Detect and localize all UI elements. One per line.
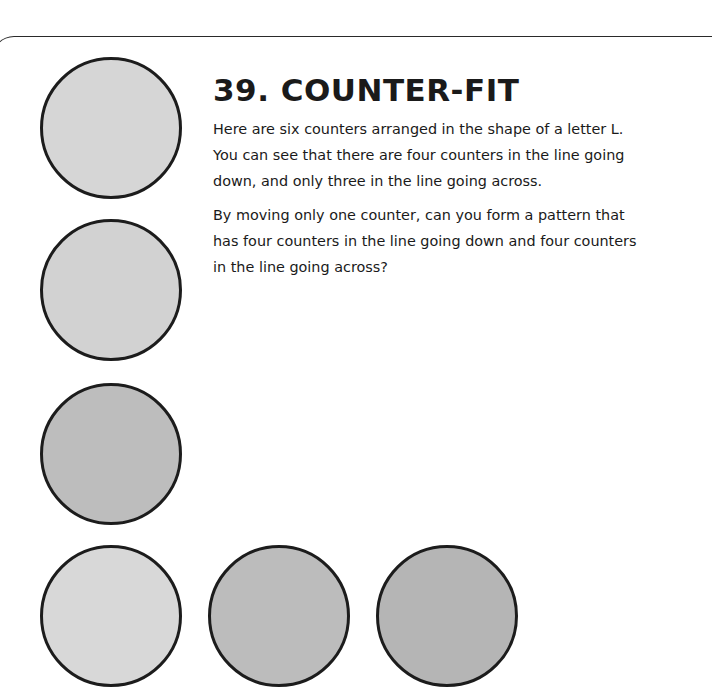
- text-line: has four counters in the line going down…: [213, 228, 665, 254]
- counter-4-corner[interactable]: [40, 545, 182, 687]
- counter-6[interactable]: [376, 545, 518, 687]
- text-line: Here are six counters arranged in the sh…: [213, 116, 665, 142]
- counter-5[interactable]: [208, 545, 350, 687]
- text-line: By moving only one counter, can you form…: [213, 202, 665, 228]
- intro-paragraph: Here are six counters arranged in the sh…: [213, 116, 665, 194]
- counter-3[interactable]: [40, 383, 182, 525]
- text-line: You can see that there are four counters…: [213, 142, 665, 168]
- counter-1[interactable]: [40, 57, 182, 199]
- question-paragraph: By moving only one counter, can you form…: [213, 202, 665, 280]
- puzzle-title: 39. COUNTER-FIT: [213, 70, 519, 110]
- puzzle-description: Here are six counters arranged in the sh…: [213, 116, 665, 288]
- text-line: down, and only three in the line going a…: [213, 168, 665, 194]
- text-line: in the line going across?: [213, 254, 665, 280]
- counter-2[interactable]: [40, 219, 182, 361]
